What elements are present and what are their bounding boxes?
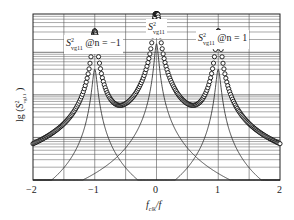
total-data-marker	[159, 41, 163, 45]
total-data-marker	[161, 52, 165, 56]
x-axis-label: fclk/f	[146, 199, 161, 212]
total-data-marker	[98, 67, 102, 71]
total-data-marker	[88, 61, 92, 65]
y-axis-label-pre: lg (	[14, 108, 25, 122]
annotation-suffix: @n = 1	[217, 32, 247, 43]
annotation-sup: 2	[203, 32, 206, 38]
annotation-n-0: S2vg11	[146, 19, 167, 38]
total-data-marker	[160, 47, 164, 51]
total-data-marker	[278, 142, 282, 146]
total-data-marker	[212, 55, 216, 59]
total-data-marker	[162, 56, 166, 60]
total-data-marker	[86, 72, 90, 76]
total-data-marker	[211, 61, 215, 65]
total-data-marker	[147, 56, 151, 60]
annotation-sub: vg11	[71, 45, 83, 51]
total-data-marker	[99, 71, 103, 75]
y-axis-label-post: )	[14, 88, 25, 94]
x-tick-label: 2	[277, 184, 282, 195]
annotation-sub: vg11	[153, 29, 165, 35]
x-axis-label-sub: clk	[149, 206, 156, 212]
total-data-marker	[149, 47, 153, 51]
annotation-sub: vg11	[203, 40, 215, 46]
total-data-marker	[223, 72, 227, 76]
annotation-n-1: S2vg11 @n = 1	[196, 30, 249, 49]
total-data-marker	[148, 52, 152, 56]
total-data-marker	[87, 67, 91, 71]
y-axis-label-symbol: S	[14, 103, 25, 108]
x-tick-label: 1	[215, 184, 220, 195]
y-axis-label-sup: 2	[14, 100, 20, 103]
total-data-marker	[85, 76, 89, 80]
total-data-marker	[220, 55, 224, 59]
x-tick-label: −2	[26, 184, 37, 195]
annotation-n-minus-1: S2vg11 @n = −1	[64, 35, 123, 54]
total-data-marker	[221, 61, 225, 65]
total-data-marker	[209, 76, 213, 80]
total-data-marker	[210, 67, 214, 71]
annotation-suffix: @n = −1	[85, 37, 121, 48]
total-data-marker	[97, 61, 101, 65]
y-axis-label-sub: vg11	[22, 94, 27, 104]
x-axis-label-tail: /f	[156, 199, 162, 210]
y-axis-label: lg (S2vg11 )	[14, 88, 27, 122]
x-tick-label: 0	[153, 184, 158, 195]
annotation-sup: 2	[153, 21, 156, 27]
total-data-marker	[150, 41, 154, 45]
total-data-marker	[89, 55, 93, 59]
total-data-marker	[222, 67, 226, 71]
total-data-marker	[146, 61, 150, 65]
x-tick-label: −1	[88, 184, 99, 195]
total-data-marker	[96, 55, 100, 59]
total-data-marker	[210, 71, 214, 75]
annotation-sup: 2	[71, 37, 74, 43]
